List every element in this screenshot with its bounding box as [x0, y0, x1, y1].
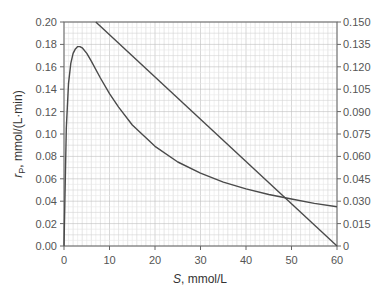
x-tick-label: 20 [149, 254, 161, 266]
chart: 01020304050600.000.020.040.060.080.100.1… [0, 0, 385, 300]
y2-tick-label: 0.075 [343, 128, 371, 140]
y-tick-label: 0.12 [36, 106, 57, 118]
y2-tick-label: 0.120 [343, 61, 371, 73]
x-tick-label: 50 [285, 254, 297, 266]
ticks: 01020304050600.000.020.040.060.080.100.1… [36, 16, 371, 266]
y2-tick-label: 0.015 [343, 218, 371, 230]
y2-tick-label: 0.105 [343, 83, 371, 95]
grid [64, 22, 337, 246]
y2-tick-label: 0.135 [343, 38, 371, 50]
y-tick-label: 0.06 [36, 173, 57, 185]
y-tick-label: 0.16 [36, 61, 57, 73]
x-tick-label: 10 [103, 254, 115, 266]
x-tick-label: 30 [194, 254, 206, 266]
y-tick-label: 0.08 [36, 150, 57, 162]
y2-tick-label: 0.150 [343, 16, 371, 28]
y2-tick-label: 0 [343, 240, 349, 252]
y-tick-label: 0.20 [36, 16, 57, 28]
y-tick-label: 0.14 [36, 83, 57, 95]
y2-tick-label: 0.030 [343, 195, 371, 207]
x-tick-label: 0 [61, 254, 67, 266]
x-tick-label: 60 [331, 254, 343, 266]
y-tick-label: 0.04 [36, 195, 57, 207]
y2-tick-label: 0.090 [343, 106, 371, 118]
y2-tick-label: 0.045 [343, 173, 371, 185]
y-tick-label: 0.18 [36, 38, 57, 50]
x-tick-label: 40 [240, 254, 252, 266]
y-tick-label: 0.00 [36, 240, 57, 252]
y-axis-label: rP, mmol/(L·min) [11, 90, 27, 177]
x-axis-label: S, mmol/L [173, 272, 227, 286]
y-tick-label: 0.10 [36, 128, 57, 140]
y2-tick-label: 0.060 [343, 150, 371, 162]
y-tick-label: 0.02 [36, 218, 57, 230]
